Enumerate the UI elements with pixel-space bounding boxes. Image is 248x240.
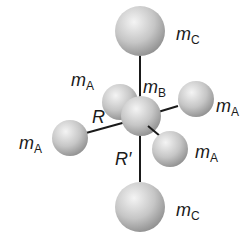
sphere-ma-right: [178, 81, 214, 117]
sphere-ma-lowright: [152, 131, 188, 167]
label-mb: mB: [143, 77, 166, 100]
sphere-mb-center: [121, 96, 161, 136]
sphere-ma-left: [52, 120, 88, 156]
label-ma-upleft: mA: [71, 70, 94, 93]
sphere-mc-top: [115, 6, 165, 56]
label-r-prime: R′: [115, 149, 132, 169]
label-mc-top: mC: [176, 24, 200, 47]
label-ma-right: mA: [216, 96, 239, 119]
label-ma-left: mA: [19, 133, 42, 156]
label-mc-bottom: mC: [176, 200, 200, 223]
molecule-diagram: mC mA mB mA mA mA mC R R′: [0, 0, 248, 240]
label-ma-lowright: mA: [195, 142, 218, 165]
bond-right: [158, 106, 178, 112]
sphere-mc-bottom: [115, 182, 165, 232]
label-r: R: [92, 107, 105, 127]
